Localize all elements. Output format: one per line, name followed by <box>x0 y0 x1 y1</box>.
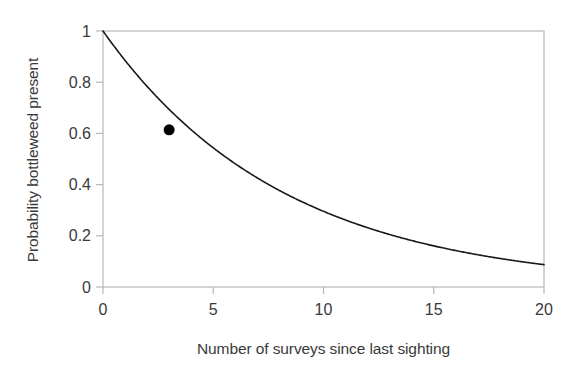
x-tick-label: 0 <box>99 301 108 318</box>
y-tick-label: 0.8 <box>69 74 91 91</box>
y-tick-label: 0.4 <box>69 176 91 193</box>
y-tick-label: 0.2 <box>69 227 91 244</box>
y-axis-ticks <box>96 31 103 287</box>
y-tick-label: 0.6 <box>69 125 91 142</box>
y-axis-tick-labels: 00.20.40.60.81 <box>69 23 91 296</box>
x-tick-label: 20 <box>535 301 553 318</box>
x-axis-tick-labels: 05101520 <box>99 301 553 318</box>
plot-area: 05101520 00.20.40.60.81 <box>0 0 583 384</box>
x-tick-label: 5 <box>209 301 218 318</box>
plot-frame <box>103 31 544 287</box>
highlighted-point-marker <box>164 124 175 135</box>
y-tick-label: 1 <box>82 23 91 40</box>
y-tick-label: 0 <box>82 279 91 296</box>
x-tick-label: 15 <box>425 301 443 318</box>
x-tick-label: 10 <box>315 301 333 318</box>
chart-figure: Probability bottleweed present Number of… <box>0 0 583 384</box>
x-axis-ticks <box>103 287 544 294</box>
